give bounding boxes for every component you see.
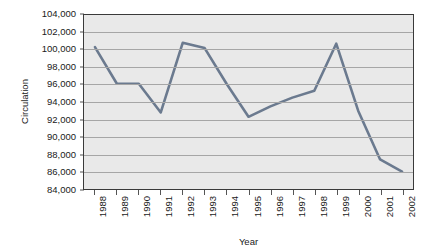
y-tick-label: 94,000 <box>47 97 76 107</box>
x-tick-label: 1994 <box>230 196 240 217</box>
x-tick-label: 2000 <box>363 196 373 217</box>
y-tick-label: 104,000 <box>42 9 76 19</box>
circulation-line-chart: Circulation 84,00086,00088,00090,00092,0… <box>0 0 431 251</box>
x-tick-label: 1998 <box>319 196 329 217</box>
x-tick-mark <box>271 190 272 195</box>
x-tick-label: 1990 <box>142 196 152 217</box>
x-axis-tick-labels: 1988198919901991199219931994199519961997… <box>83 196 414 236</box>
x-tick-label: 1995 <box>253 196 263 217</box>
x-tick-mark <box>381 190 382 195</box>
gridline <box>84 120 413 121</box>
gridline <box>84 155 413 156</box>
x-tick-mark <box>293 190 294 195</box>
gridline <box>84 32 413 33</box>
x-tick-label: 1991 <box>164 196 174 217</box>
y-axis-tick-labels: 84,00086,00088,00090,00092,00094,00096,0… <box>24 14 80 190</box>
x-tick-mark <box>359 190 360 195</box>
x-tick-mark <box>226 190 227 195</box>
gridline <box>84 172 413 173</box>
plot-area <box>83 14 414 190</box>
y-tick-label: 90,000 <box>47 132 76 142</box>
gridline <box>84 102 413 103</box>
x-tick-mark <box>138 190 139 195</box>
x-tick-mark <box>182 190 183 195</box>
x-tick-mark <box>116 190 117 195</box>
x-tick-mark <box>403 190 404 195</box>
x-tick-label: 1999 <box>341 196 351 217</box>
x-tick-label: 1988 <box>98 196 108 217</box>
y-tick-label: 96,000 <box>47 80 76 90</box>
y-tick-label: 100,000 <box>42 44 76 54</box>
x-tick-label: 1989 <box>120 196 130 217</box>
circulation-series-line <box>95 43 402 172</box>
y-tick-label: 92,000 <box>47 115 76 125</box>
y-tick-label: 98,000 <box>47 62 76 72</box>
x-tick-label: 1992 <box>186 196 196 217</box>
x-tick-mark <box>94 190 95 195</box>
gridline <box>84 49 413 50</box>
y-tick-label: 84,000 <box>47 185 76 195</box>
y-tick-label: 88,000 <box>47 150 76 160</box>
gridline <box>84 67 413 68</box>
x-tick-label: 1997 <box>297 196 307 217</box>
x-tick-label: 1993 <box>208 196 218 217</box>
x-tick-mark <box>160 190 161 195</box>
y-tick-label: 86,000 <box>47 168 76 178</box>
gridline <box>84 84 413 85</box>
gridline <box>84 137 413 138</box>
x-tick-label: 2002 <box>407 196 417 217</box>
y-tick-label: 102,000 <box>42 27 76 37</box>
x-tick-mark <box>204 190 205 195</box>
x-tick-label: 1996 <box>275 196 285 217</box>
x-tick-mark <box>249 190 250 195</box>
x-tick-mark <box>337 190 338 195</box>
x-tick-label: 2001 <box>385 196 395 217</box>
x-axis-title: Year <box>83 236 414 247</box>
x-tick-mark <box>315 190 316 195</box>
